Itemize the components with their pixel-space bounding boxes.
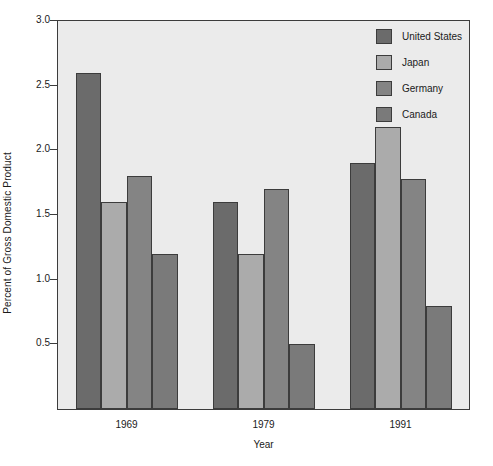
bar [375, 127, 401, 409]
y-axis-tick-label: 1.5 [22, 209, 50, 219]
legend-label: United States [402, 30, 462, 43]
bar [152, 254, 178, 409]
bar-chart-figure: Percent of Gross Domestic Product 0.51.0… [0, 0, 493, 466]
legend-swatch-icon [376, 107, 392, 122]
y-axis-title: Percent of Gross Domestic Product [0, 0, 16, 466]
x-axis-title: Year [57, 438, 470, 452]
bar [238, 254, 264, 409]
bar [350, 163, 376, 409]
legend-label: Germany [402, 82, 443, 95]
y-axis-tick-label: 3.0 [22, 15, 50, 25]
legend-swatch-icon [376, 29, 392, 44]
x-axis-tick-labels: 196919791991 [57, 418, 470, 432]
legend-item: Germany [376, 78, 470, 100]
legend-item: Japan [376, 52, 470, 74]
x-axis-tick-label: 1979 [234, 418, 294, 432]
bar [426, 306, 452, 409]
bar [127, 176, 153, 409]
bar [213, 202, 239, 409]
bar [401, 179, 427, 409]
y-axis-tick-labels: 0.51.01.52.02.53.0 [22, 20, 50, 410]
legend-swatch-icon [376, 81, 392, 96]
bar [264, 189, 290, 409]
legend-item: United States [376, 26, 470, 48]
bar [76, 73, 102, 409]
y-axis-tick-label: 2.0 [22, 144, 50, 154]
legend-label: Japan [402, 56, 429, 69]
legend-item: Canada [376, 104, 470, 126]
y-axis-tick-label: 2.5 [22, 80, 50, 90]
x-axis-tick-label: 1969 [97, 418, 157, 432]
bar [289, 344, 315, 409]
bar [101, 202, 127, 409]
x-axis-tick-label: 1991 [371, 418, 431, 432]
y-axis-tick-label: 1.0 [22, 274, 50, 284]
y-axis-tick-label: 0.5 [22, 338, 50, 348]
legend-label: Canada [402, 108, 437, 121]
legend-swatch-icon [376, 55, 392, 70]
plot-area: United StatesJapanGermanyCanada [57, 20, 470, 410]
chart-legend: United StatesJapanGermanyCanada [376, 26, 470, 130]
